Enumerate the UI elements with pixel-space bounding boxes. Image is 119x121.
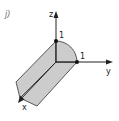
panel-label: j) <box>4 10 10 19</box>
z-axis-label: z <box>49 10 53 19</box>
x-axis-label: x <box>22 103 27 112</box>
y-axis-label: y <box>106 67 111 76</box>
z-arrow-icon <box>54 11 59 18</box>
3d-region-diagram: j) z y x 1 1 <box>0 0 119 121</box>
y-unit-point <box>75 60 79 64</box>
quarter-circle-section <box>56 41 77 62</box>
z-unit-point <box>54 39 58 43</box>
z-one-label: 1 <box>59 31 64 40</box>
y-one-label: 1 <box>80 52 85 61</box>
y-arrow-icon <box>106 60 113 65</box>
extruded-region <box>16 41 77 106</box>
